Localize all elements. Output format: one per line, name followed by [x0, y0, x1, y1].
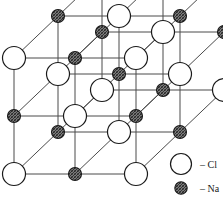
chlorine-atom [47, 63, 70, 86]
legend-chlorine-icon [171, 154, 192, 175]
chlorine-atom [108, 5, 131, 28]
sodium-atom [52, 10, 65, 23]
chlorine-atom [125, 47, 148, 70]
sodium-atom [174, 126, 187, 139]
sodium-atom [52, 126, 65, 139]
chlorine-atom [64, 105, 87, 128]
sodium-atom [130, 110, 143, 123]
chlorine-atom [169, 63, 192, 86]
legend-chlorine-label: – Cl [199, 159, 217, 170]
sodium-atom [113, 68, 126, 81]
sodium-atom [96, 26, 109, 39]
chlorine-atom [108, 121, 131, 144]
sodium-atom [8, 110, 21, 123]
chlorine-atom [125, 163, 148, 186]
chlorine-atom [213, 79, 224, 102]
chlorine-atom [3, 163, 26, 186]
nacl-lattice-figure: – Cl – Na [0, 0, 223, 203]
lattice-diagram: – Cl – Na [0, 0, 223, 203]
chlorine-atom [152, 21, 175, 44]
sodium-atom [69, 168, 82, 181]
chlorine-atom [3, 47, 26, 70]
legend-sodium-label: – Na [199, 183, 220, 194]
chlorine-atom [91, 79, 114, 102]
sodium-atom [69, 52, 82, 65]
sodium-atom [174, 10, 187, 23]
legend-sodium-icon [175, 182, 187, 194]
sodium-atom [218, 26, 224, 39]
sodium-atom [157, 84, 170, 97]
legend: – Cl – Na [171, 154, 220, 195]
